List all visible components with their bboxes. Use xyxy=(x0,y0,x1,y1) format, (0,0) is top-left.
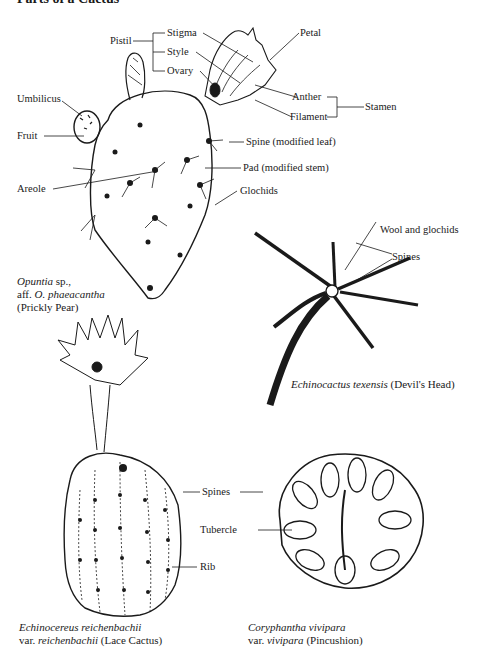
label-areole: Areole xyxy=(17,183,46,195)
label-fruit: Fruit xyxy=(17,130,37,142)
label-spines-lace: Spines xyxy=(202,486,230,498)
label-glochids: Glochids xyxy=(240,185,278,197)
label-style: Style xyxy=(167,46,189,58)
label-spine: Spine (modified leaf) xyxy=(246,136,336,148)
label-petal: Petal xyxy=(300,27,321,39)
label-umbilicus: Umbilicus xyxy=(17,93,61,105)
label-wool-and-glochids: Wool and glochids xyxy=(380,224,458,236)
label-pad: Pad (modified stem) xyxy=(243,162,329,174)
caption-pincushion: Coryphantha vivipara var. vivipara (Pinc… xyxy=(248,621,363,647)
lace-cactus-illustration xyxy=(58,315,181,616)
caption-devils-head: Echinocactus texensis (Devil's Head) xyxy=(291,378,455,391)
caption-opuntia: Opuntia sp., aff. O. phaeacantha (Prickl… xyxy=(17,275,105,314)
label-anther: Anther xyxy=(292,91,321,103)
label-spines-devils-head: Spines xyxy=(392,251,420,263)
pincushion-illustration xyxy=(279,454,423,588)
label-stamen: Stamen xyxy=(365,101,397,113)
label-ovary: Ovary xyxy=(167,65,193,77)
caption-lace-cactus: Echinocereus reichenbachii var. reichenb… xyxy=(19,621,162,647)
label-rib: Rib xyxy=(200,561,215,573)
label-pistil: Pistil xyxy=(110,35,132,47)
label-stigma: Stigma xyxy=(167,27,197,39)
label-tubercle: Tubercle xyxy=(200,524,237,536)
label-filament: Filament xyxy=(290,111,327,123)
cactus-illustrations xyxy=(0,0,478,649)
